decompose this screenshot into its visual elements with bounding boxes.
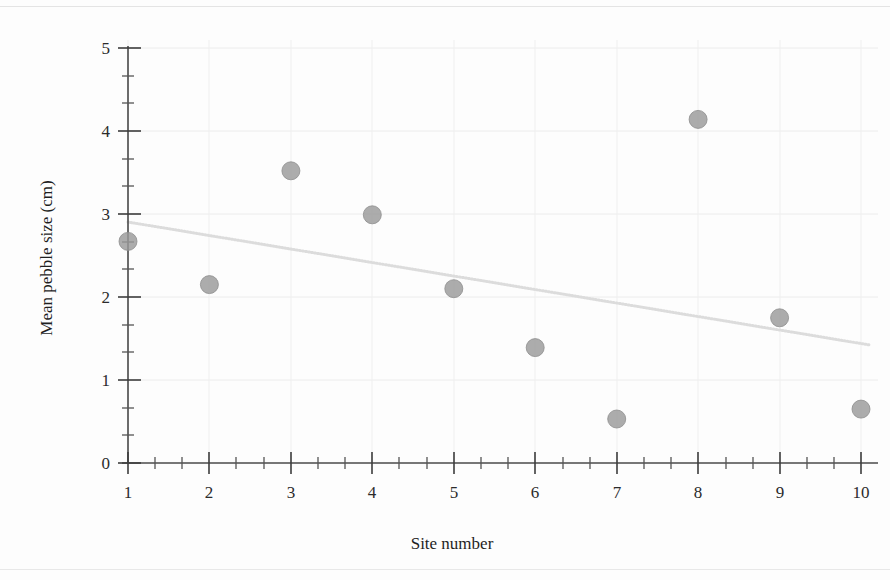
trendline: [128, 222, 870, 345]
x-axis-title: Site number: [411, 534, 494, 553]
y-axis-tick-labels: 5 4 3 2 1 0: [102, 39, 111, 473]
y-tick-label-2: 2: [102, 288, 111, 307]
x-tick-label-6: 6: [531, 483, 540, 502]
plot-canvas: 5 4 3 2 1 0 1 2 3 4 5 6 7 8 9 10 Site nu…: [0, 0, 890, 580]
data-point: [689, 110, 707, 128]
x-tick-label-2: 2: [205, 483, 214, 502]
y-tick-label-4: 4: [102, 122, 111, 141]
scatter-plot-figure: 5 4 3 2 1 0 1 2 3 4 5 6 7 8 9 10 Site nu…: [0, 0, 890, 580]
y-axis-title: Mean pebble size (cm): [37, 180, 56, 335]
x-tick-label-4: 4: [368, 483, 377, 502]
x-tick-label-10: 10: [853, 483, 870, 502]
data-point: [200, 276, 218, 294]
x-tick-label-7: 7: [613, 483, 622, 502]
data-point: [771, 309, 789, 327]
x-tick-label-9: 9: [776, 483, 785, 502]
data-point: [852, 400, 870, 418]
y-tick-label-1: 1: [102, 371, 111, 390]
data-point: [363, 206, 381, 224]
data-point: [282, 162, 300, 180]
x-tick-label-5: 5: [450, 483, 459, 502]
data-point: [119, 232, 137, 250]
x-tick-label-8: 8: [694, 483, 703, 502]
x-tick-label-3: 3: [287, 483, 296, 502]
grid-vertical: [128, 40, 861, 463]
data-point: [445, 280, 463, 298]
data-point: [526, 339, 544, 357]
x-tick-label-1: 1: [124, 483, 133, 502]
y-tick-label-5: 5: [102, 39, 111, 58]
x-axis-tick-labels: 1 2 3 4 5 6 7 8 9 10: [124, 483, 870, 502]
y-tick-label-0: 0: [102, 454, 111, 473]
y-axis-major-ticks: [118, 48, 141, 463]
y-tick-label-3: 3: [102, 205, 111, 224]
grid-horizontal: [128, 48, 878, 380]
data-point: [608, 410, 626, 428]
